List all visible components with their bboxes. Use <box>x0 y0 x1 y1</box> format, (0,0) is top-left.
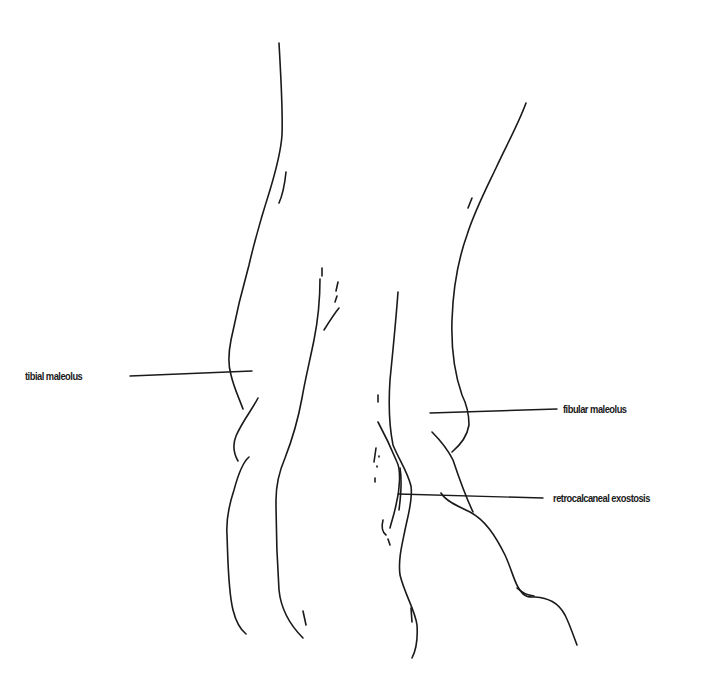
medial-outline-lower <box>227 457 249 634</box>
label-retrocalcaneal-exostosis: retrocalcaneal exostosis <box>553 492 650 504</box>
exostosis-dash-e <box>388 539 390 545</box>
lateral-tick <box>468 198 472 208</box>
exostosis-inner-1 <box>378 422 400 528</box>
calc-lower-tick <box>411 608 412 622</box>
fibular-leader-line <box>430 409 557 413</box>
retrocalcaneal-leader-line <box>398 494 543 498</box>
achilles-lower-tick <box>303 611 306 625</box>
fibular-malleolus-curve <box>432 432 473 512</box>
medial-tick <box>279 172 286 203</box>
achilles-medial-edge <box>276 279 320 638</box>
tibial-leader-line <box>130 371 252 376</box>
achilles-dash-2 <box>335 296 337 302</box>
achilles-dash-1 <box>336 282 338 291</box>
exostosis-dash-d <box>382 520 386 535</box>
heel-outline <box>441 493 577 645</box>
medial-malleolus-bump <box>234 398 258 461</box>
achilles-tick-diagonal <box>324 308 339 330</box>
lateral-outline-upper <box>452 103 526 452</box>
label-tibial-malleolus: tibial maleolus <box>25 370 82 382</box>
exostosis-dash-b <box>374 448 376 462</box>
label-fibular-malleolus: fibular maleolus <box>563 403 627 415</box>
ankle-sketch <box>0 0 723 683</box>
medial-outline-upper <box>229 43 283 409</box>
achilles-lateral-edge <box>389 292 417 658</box>
